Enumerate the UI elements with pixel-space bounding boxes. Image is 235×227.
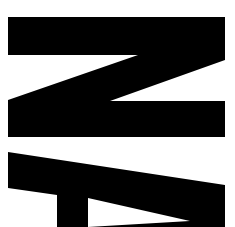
- letterform-graphic: [0, 0, 235, 227]
